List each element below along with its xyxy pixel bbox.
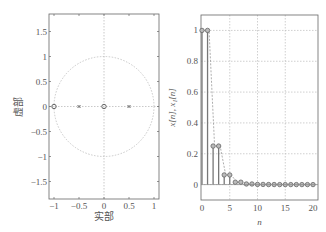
stem-marker bbox=[250, 182, 254, 186]
y-tick-label: 0.6 bbox=[187, 87, 199, 97]
x-axis-label: n bbox=[257, 217, 262, 227]
stem-marker bbox=[200, 28, 204, 32]
stem-marker bbox=[228, 173, 232, 177]
x-tick-label: 5 bbox=[228, 203, 233, 213]
x-tick-label: 0 bbox=[200, 203, 205, 213]
stem-marker bbox=[211, 144, 215, 148]
series-x1-line bbox=[204, 30, 315, 184]
x-tick-label: 10 bbox=[253, 203, 263, 213]
y-tick-label: 0.8 bbox=[187, 56, 199, 66]
x-tick-label: 0.5 bbox=[123, 201, 135, 211]
y-tick-label: 0 bbox=[43, 102, 48, 112]
x-tick-label: 1 bbox=[152, 201, 157, 211]
y-tick-label: −0.5 bbox=[31, 127, 48, 137]
stem-marker bbox=[244, 182, 248, 186]
y-tick-label: 0 bbox=[194, 180, 199, 190]
stem-marker bbox=[205, 28, 209, 32]
x-tick-label: 20 bbox=[309, 203, 319, 213]
y-axis-label: x[n], x₁[n] bbox=[167, 88, 177, 128]
y-tick-label: 1 bbox=[194, 25, 199, 35]
y-tick-label: −1 bbox=[37, 152, 47, 162]
y-tick-label: 0.5 bbox=[36, 77, 48, 87]
stem-marker bbox=[239, 180, 243, 184]
y-axis-label: 虚部 bbox=[12, 97, 24, 117]
y-tick-label: 1.5 bbox=[36, 27, 48, 37]
stem-marker bbox=[233, 180, 237, 184]
y-tick-label: 0.2 bbox=[187, 149, 198, 159]
chart-canvas: −1−0.500.511.510.50−0.5−1−1.5实部虚部0510152… bbox=[0, 0, 326, 232]
stem-plot: 0510152000.20.40.60.81nx[n], x₁[n] bbox=[167, 15, 318, 227]
x-tick-label: 0 bbox=[102, 201, 107, 211]
stem-marker bbox=[216, 144, 220, 148]
y-tick-label: −1.5 bbox=[31, 177, 48, 187]
x-tick-label: −1 bbox=[49, 201, 59, 211]
x-tick-label: 15 bbox=[281, 203, 291, 213]
x-tick-label: −0.5 bbox=[71, 201, 88, 211]
pole-zero-plot: −1−0.500.511.510.50−0.5−1−1.5实部虚部 bbox=[12, 14, 159, 222]
y-tick-label: 0.4 bbox=[187, 118, 199, 128]
stem-marker bbox=[222, 173, 226, 177]
x-axis-label: 实部 bbox=[94, 210, 114, 222]
y-tick-label: 1 bbox=[43, 52, 48, 62]
